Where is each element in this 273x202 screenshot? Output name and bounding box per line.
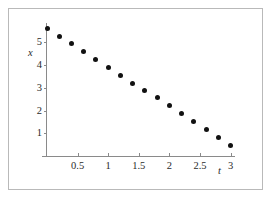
- y-tick-mark: [44, 65, 47, 66]
- data-point: [179, 111, 184, 116]
- scatter-plot: 0.511.522.53 12345 x t: [9, 9, 264, 191]
- y-tick-label: 2: [31, 105, 42, 116]
- y-tick-mark: [44, 42, 47, 43]
- x-tick-label: 2.5: [193, 161, 206, 172]
- x-tick-mark: [200, 153, 201, 156]
- data-point: [167, 103, 172, 108]
- data-point: [204, 127, 209, 132]
- y-tick-label: 4: [31, 60, 42, 71]
- y-tick-label: 3: [31, 83, 42, 94]
- y-axis-label: x: [28, 48, 33, 59]
- data-point: [93, 57, 98, 62]
- x-tick-mark: [231, 153, 232, 156]
- x-tick-mark: [108, 153, 109, 156]
- x-tick-mark: [139, 153, 140, 156]
- figure-frame: 0.511.522.53 12345 x t: [8, 8, 263, 190]
- data-point: [81, 49, 86, 54]
- y-tick-mark: [44, 133, 47, 134]
- y-tick-label: 5: [31, 37, 42, 48]
- data-point: [106, 65, 111, 70]
- x-tick-label: 2: [167, 161, 172, 172]
- x-tick-mark: [78, 153, 79, 156]
- x-tick-label: 1.5: [132, 161, 145, 172]
- x-tick-mark: [169, 153, 170, 156]
- data-point: [45, 26, 50, 31]
- x-tick-label: 3: [228, 161, 233, 172]
- data-point: [69, 41, 74, 46]
- data-point: [118, 73, 123, 78]
- y-tick-mark: [44, 88, 47, 89]
- data-point: [155, 95, 160, 100]
- data-point: [191, 119, 196, 124]
- x-tick-label: 1: [106, 161, 111, 172]
- y-tick-mark: [44, 111, 47, 112]
- data-point: [216, 135, 221, 140]
- x-axis-line: [42, 156, 235, 157]
- data-point: [228, 143, 233, 148]
- y-tick-label: 1: [31, 128, 42, 139]
- data-point: [57, 34, 62, 39]
- data-point: [142, 88, 147, 93]
- data-point: [130, 81, 135, 86]
- x-tick-label: 0.5: [71, 161, 84, 172]
- x-axis-label: t: [218, 166, 221, 177]
